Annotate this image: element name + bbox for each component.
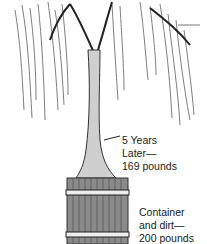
- foliage: [15, 2, 194, 125]
- tree-pointer-line: [104, 136, 120, 140]
- tree-weight-label: 5 Years Later— 169 pounds: [122, 134, 177, 173]
- tree-label-line-3: 169 pounds: [122, 160, 177, 173]
- barrel: [66, 178, 129, 244]
- trunk: [76, 50, 116, 178]
- container-label-line-2: and dirt—: [139, 219, 194, 232]
- container-label-line-1: Container: [139, 206, 194, 219]
- tree-label-line-1: 5 Years: [122, 134, 177, 147]
- container-label-line-3: 200 pounds: [139, 232, 194, 244]
- container-weight-label: Container and dirt— 200 pounds: [139, 206, 194, 244]
- tree-label-line-2: Later—: [122, 147, 177, 160]
